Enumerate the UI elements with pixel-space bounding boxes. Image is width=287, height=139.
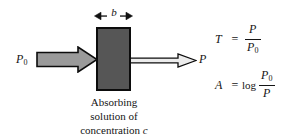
sample-cell xyxy=(96,27,131,91)
transmittance-equation: T = P P0 xyxy=(215,22,287,56)
transmittance-numerator: P xyxy=(247,23,259,39)
path-length-label: b xyxy=(108,6,120,18)
absorbance-function: log xyxy=(242,79,259,91)
caption-line-3: concentration c xyxy=(48,123,180,137)
concentration-symbol: c xyxy=(143,124,148,136)
transmittance-denominator-subscript: 0 xyxy=(254,46,258,55)
absorbance-fraction: P0 P xyxy=(259,69,275,102)
transmittance-denominator: P0 xyxy=(245,40,261,56)
cell-caption: Absorbing solution of concentration c xyxy=(48,95,180,137)
transmittance-relation: = xyxy=(228,32,242,47)
incident-power-subscript: 0 xyxy=(23,58,27,67)
beer-lambert-diagram: b P0 P Absorbing solution of concentrati… xyxy=(0,0,287,139)
absorbance-equation: A = log P0 P xyxy=(215,68,287,102)
transmitted-power-label: P xyxy=(199,52,206,67)
caption-line-2: solution of xyxy=(48,109,180,123)
incident-beam-arrow xyxy=(36,46,98,73)
transmittance-fraction: P P0 xyxy=(245,23,261,56)
caption-line-1: Absorbing xyxy=(48,95,180,109)
absorbance-relation: = xyxy=(228,78,242,93)
caption-line-3-text: concentration xyxy=(80,124,140,136)
transmitted-beam-arrow xyxy=(130,53,197,68)
transmitted-power-symbol: P xyxy=(199,52,206,66)
transmittance-lhs: T xyxy=(215,32,228,47)
absorbance-numerator: P0 xyxy=(259,69,275,85)
absorbance-denominator: P xyxy=(261,86,273,102)
absorbance-lhs: A xyxy=(215,78,228,93)
absorbance-numerator-subscript: 0 xyxy=(268,74,272,83)
equation-list: T = P P0 A = log P0 P xyxy=(215,22,287,102)
incident-power-label: P0 xyxy=(16,52,28,67)
